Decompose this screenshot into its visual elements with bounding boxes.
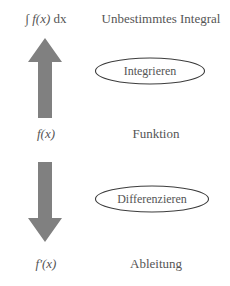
function-expression: f(x) — [0, 126, 92, 142]
operation-differentiate-label: Differenzieren — [94, 184, 210, 214]
label-unbestimmtes-integral: Unbestimmtes Integral — [92, 11, 230, 27]
arrow-up-icon — [26, 36, 64, 120]
f-prime-of-x: f′(x) — [36, 256, 57, 271]
function-of-x: f(x) — [37, 126, 55, 141]
operation-integrate-ellipse: Integrieren — [94, 56, 206, 86]
label-funktion: Funktion — [92, 126, 220, 142]
operation-differentiate-ellipse: Differenzieren — [94, 184, 210, 214]
label-ableitung: Ableitung — [92, 256, 220, 272]
differential-dx: dx — [54, 11, 67, 26]
integral-derivative-diagram: ∫ f(x) dx Unbestimmtes Integral Integrie… — [0, 0, 230, 286]
arrow-down-icon — [26, 160, 64, 244]
indefinite-integral-expression: ∫ f(x) dx — [0, 11, 92, 27]
derivative-expression: f′(x) — [0, 256, 92, 272]
integral-sign: ∫ — [25, 11, 29, 26]
operation-integrate-label: Integrieren — [94, 56, 206, 86]
integrand-expression: f(x) — [32, 11, 50, 26]
